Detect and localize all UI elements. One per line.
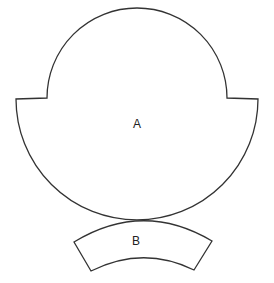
- shape-a: [16, 8, 258, 220]
- shape-b-label: B: [132, 234, 140, 248]
- shape-a-label: A: [133, 117, 141, 131]
- diagram-canvas: A B: [0, 0, 274, 283]
- shape-b: [74, 221, 212, 271]
